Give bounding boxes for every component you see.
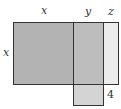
label-top-x: x [41, 5, 47, 16]
z-column-region [103, 22, 119, 85]
extension-region [73, 84, 104, 106]
label-left-x: x [3, 47, 9, 58]
label-top-y: y [85, 6, 91, 17]
label-bottom-4: 4 [107, 89, 114, 100]
x-by-x-region [13, 22, 74, 85]
y-column-region [73, 22, 104, 85]
label-top-z: z [108, 6, 114, 17]
